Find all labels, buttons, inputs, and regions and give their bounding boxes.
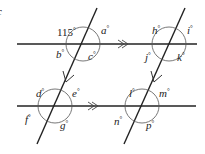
- angle-label-i: i°: [187, 24, 193, 36]
- degree-symbol: °: [190, 24, 193, 32]
- angle-label-e: e°: [72, 87, 80, 99]
- degree-symbol: °: [182, 51, 185, 59]
- parallel-lines-diagram: c 115°a°b°c°h°i°j°k°d°e°f°g°l°m°n°p°: [0, 0, 205, 154]
- angle-label-c: c°: [88, 50, 96, 62]
- angle-label-m: m°: [159, 87, 170, 99]
- degree-symbol: °: [77, 87, 80, 95]
- angle-label-given: 115°: [57, 26, 76, 38]
- degree-symbol: °: [167, 87, 170, 95]
- degree-symbol: °: [107, 24, 110, 32]
- degree-symbol: °: [152, 119, 155, 127]
- degree-symbol: °: [66, 119, 69, 127]
- degree-symbol: °: [93, 50, 96, 58]
- angle-label-p: p°: [145, 119, 155, 131]
- angle-label-l: l°: [129, 87, 135, 99]
- degree-symbol: °: [42, 87, 45, 95]
- angle-label-j: j°: [143, 51, 151, 63]
- angle-label-f: f°: [25, 113, 31, 125]
- degree-symbol: °: [62, 48, 65, 56]
- degree-symbol: °: [28, 113, 31, 121]
- stray-label: c: [0, 5, 2, 17]
- degree-symbol: °: [132, 87, 135, 95]
- angle-label-n: n°: [114, 115, 123, 127]
- angle-label-g: g°: [60, 119, 69, 131]
- degree-symbol: °: [148, 51, 151, 59]
- degree-symbol: °: [73, 26, 76, 34]
- angle-label-d: d°: [36, 87, 45, 99]
- degree-symbol: °: [158, 24, 161, 32]
- angle-label-h: h°: [152, 24, 161, 36]
- angle-label-k: k°: [177, 51, 185, 63]
- angle-label-b: b°: [56, 48, 65, 60]
- angle-label-a: a°: [101, 24, 110, 36]
- degree-symbol: °: [120, 115, 123, 123]
